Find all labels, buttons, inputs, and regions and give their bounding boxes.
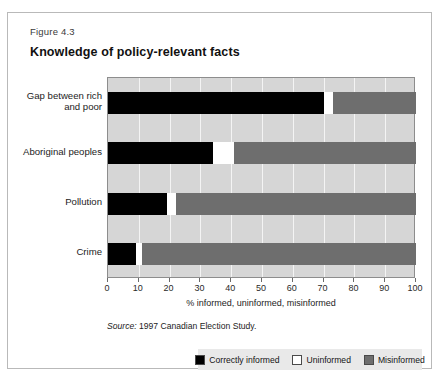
- figure-number: Figure 4.3: [30, 26, 75, 37]
- legend-swatch-gray: [364, 355, 374, 365]
- bar-segment: [176, 193, 416, 215]
- x-axis-tick: [323, 278, 324, 282]
- legend-label: Correctly informed: [209, 355, 279, 365]
- bar-segment: [234, 142, 416, 164]
- bar-segment: [108, 142, 213, 164]
- plot-area: [107, 77, 415, 278]
- category-label-line: Gap between rich: [0, 90, 102, 102]
- bar-segment: [108, 193, 167, 215]
- bar-row: [108, 142, 414, 164]
- legend-label: Misinformed: [378, 355, 425, 365]
- bar-row: [108, 92, 414, 114]
- bar-segment: [108, 243, 136, 265]
- category-label: Pollution: [0, 196, 102, 208]
- x-axis-tick: [138, 278, 139, 282]
- legend-item: Misinformed: [364, 355, 425, 365]
- chart-legend: Correctly informedUninformedMisinformed: [198, 349, 422, 370]
- legend-item: Uninformed: [292, 355, 350, 365]
- x-axis-tick: [107, 278, 108, 282]
- source-label: Source:: [107, 321, 139, 331]
- bar-row: [108, 243, 414, 265]
- category-label-line: Aboriginal peoples: [0, 146, 102, 158]
- category-label: Gap between richand poor: [0, 90, 102, 113]
- bar-segment: [333, 92, 416, 114]
- category-label-line: Pollution: [0, 196, 102, 208]
- category-label: Aboriginal peoples: [0, 146, 102, 158]
- x-axis-tick: [169, 278, 170, 282]
- bar-segment: [324, 92, 333, 114]
- bar-segment: [142, 243, 416, 265]
- legend-swatch-white: [292, 355, 302, 365]
- bar-segment: [108, 92, 324, 114]
- bar-segment: [167, 193, 176, 215]
- x-axis-tick: [230, 278, 231, 282]
- legend-swatch-black: [195, 355, 205, 365]
- chart-plot-wrapper: 0102030405060708090100 Gap between richa…: [107, 77, 415, 278]
- x-axis-tick: [261, 278, 262, 282]
- category-label-line: and poor: [0, 101, 102, 113]
- figure-frame: Figure 4.3 Knowledge of policy-relevant …: [7, 12, 432, 369]
- bar-segment: [213, 142, 235, 164]
- source-note: Source: 1997 Canadian Election Study.: [107, 321, 256, 331]
- x-axis-tick: [199, 278, 200, 282]
- x-axis-tick: [353, 278, 354, 282]
- x-axis-tick-label: 100: [395, 283, 435, 293]
- source-value: 1997 Canadian Election Study.: [139, 321, 256, 331]
- category-label: Crime: [0, 246, 102, 258]
- category-label-line: Crime: [0, 246, 102, 258]
- x-axis-title: % informed, uninformed, misinformed: [107, 298, 415, 308]
- bar-row: [108, 193, 414, 215]
- legend-item: Correctly informed: [195, 355, 279, 365]
- figure-title: Knowledge of policy-relevant facts: [30, 45, 240, 59]
- legend-label: Uninformed: [306, 355, 350, 365]
- x-axis-tick: [415, 278, 416, 282]
- x-axis-tick: [292, 278, 293, 282]
- x-axis-tick: [384, 278, 385, 282]
